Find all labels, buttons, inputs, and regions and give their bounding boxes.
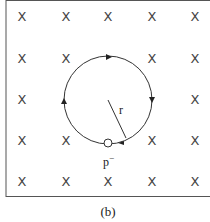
field-x-icon: X xyxy=(148,133,157,148)
field-x-icon: X xyxy=(18,92,27,107)
field-x-icon: X xyxy=(62,174,71,189)
proton-particle xyxy=(104,139,112,147)
field-x-icon: X xyxy=(104,174,113,189)
magnetic-field-diagram: XXXXXXXXXXXXXXXXXXXX r p− (b) xyxy=(0,0,210,222)
field-x-icon: X xyxy=(18,133,27,148)
field-x-icon: X xyxy=(148,51,157,66)
field-x-icon: X xyxy=(62,133,71,148)
field-x-icon: X xyxy=(18,51,27,66)
field-x-icon: X xyxy=(191,9,200,24)
field-x-icon: X xyxy=(191,51,200,66)
field-x-icon: X xyxy=(104,9,113,24)
field-x-icon: X xyxy=(62,51,71,66)
field-x-icon: X xyxy=(191,133,200,148)
field-x-icon: X xyxy=(191,92,200,107)
field-x-icon: X xyxy=(191,174,200,189)
figure-caption: (b) xyxy=(100,204,115,219)
field-x-icon: X xyxy=(148,9,157,24)
field-x-icon: X xyxy=(62,9,71,24)
field-x-icon: X xyxy=(18,174,27,189)
field-x-icon: X xyxy=(18,9,27,24)
radius-label: r xyxy=(119,103,123,117)
field-x-icon: X xyxy=(148,174,157,189)
